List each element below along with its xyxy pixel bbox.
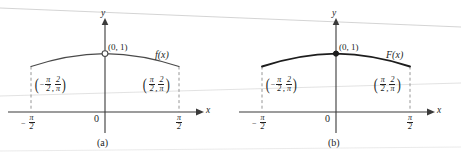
left-endpoint-coordinate-label: ( − π 2 , 2 π )	[265, 76, 298, 94]
origin-label: 0	[325, 114, 330, 124]
right-y-fraction: 2 π	[158, 76, 164, 94]
left-y-fraction: 2 π	[286, 76, 292, 94]
right-paren-open: (	[374, 76, 378, 93]
right-paren-close: )	[397, 76, 401, 93]
left-paren-open: (	[266, 76, 270, 93]
panel-b-caption: (b)	[328, 138, 340, 148]
vertex-label: (0, 1)	[339, 43, 359, 52]
right-endpoint-coordinate-label: ( π 2 , 2 π )	[142, 76, 171, 94]
right-y-fraction: 2 π	[389, 76, 395, 94]
right-x-fraction: π 2	[380, 76, 386, 94]
vertex-label: (0, 1)	[108, 43, 128, 52]
left-x-sign: −	[271, 81, 276, 89]
x-tick-label-negative-pi-over-2: − π 2	[252, 114, 266, 132]
left-endpoint-coordinate-label: ( − π 2 , 2 π )	[34, 76, 67, 94]
right-paren-close: )	[166, 76, 170, 93]
panel-a: y x 0 (0, 1) f(x) ( − π 2 , 2 π ) ( π	[0, 0, 230, 157]
x-axis-arrowhead	[427, 109, 435, 116]
left-x-sign: −	[40, 81, 45, 89]
figure-container: y x 0 (0, 1) f(x) ( − π 2 , 2 π ) ( π	[0, 0, 461, 157]
y-axis-arrowhead	[102, 18, 109, 25]
y-axis-label: y	[101, 9, 105, 19]
right-comma: ,	[155, 84, 157, 94]
panel-a-caption: (a)	[97, 138, 108, 148]
right-x-fraction: π 2	[149, 76, 155, 94]
right-comma: ,	[386, 84, 388, 94]
function-label-f: f(x)	[155, 50, 169, 60]
right-paren-open: (	[143, 76, 147, 93]
right-endpoint-coordinate-label: ( π 2 , 2 π )	[373, 76, 402, 94]
left-paren-close: )	[293, 76, 297, 93]
left-y-fraction: 2 π	[55, 76, 61, 94]
vertex-filled-dot-marker	[333, 51, 338, 56]
y-axis-label: y	[332, 9, 336, 19]
left-x-fraction: π 2	[276, 76, 282, 94]
function-label-F: F(x)	[386, 50, 403, 60]
left-x-fraction: π 2	[45, 76, 51, 94]
left-paren-open: (	[35, 76, 39, 93]
y-axis-arrowhead	[333, 18, 340, 25]
left-comma: ,	[283, 84, 285, 94]
x-axis-label: x	[437, 106, 441, 116]
left-comma: ,	[52, 84, 54, 94]
x-tick-label-negative-pi-over-2: − π 2	[21, 114, 35, 132]
x-tick-label-pi-over-2: π 2	[175, 114, 183, 132]
panel-b: y x 0 (0, 1) F(x) ( − π 2 , 2 π ) ( π 2	[231, 0, 461, 157]
x-axis-arrowhead	[196, 109, 204, 116]
origin-label: 0	[94, 114, 99, 124]
x-axis-label: x	[206, 106, 210, 116]
left-paren-close: )	[62, 76, 66, 93]
x-tick-label-pi-over-2: π 2	[406, 114, 414, 132]
